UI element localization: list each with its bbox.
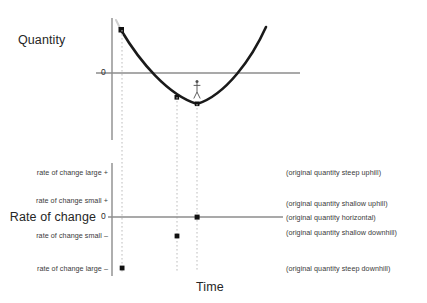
- note-shallow-downhill: (original quantity shallow downhill): [286, 229, 397, 236]
- note-horizontal: (original quantity horizontal): [286, 214, 376, 221]
- rate-point-small-minus: [175, 234, 180, 239]
- quantity-axis-title: Quantity: [18, 34, 65, 47]
- rate-point-large-minus: [120, 266, 125, 271]
- curve-marker-steep-downhill: [119, 27, 125, 33]
- person-figure-icon: [194, 80, 201, 99]
- rate-tick-large-minus: rate of change large –: [37, 265, 108, 272]
- note-steep-downhill: (original quantity steep downhill): [286, 265, 390, 272]
- time-axis-title: Time: [196, 281, 224, 294]
- note-steep-uphill: (original quantity steep uphill): [286, 169, 381, 176]
- rate-point-zero: [195, 215, 200, 220]
- quantity-curve: [121, 27, 266, 104]
- rate-tick-small-minus: rate of change small –: [36, 232, 108, 239]
- derivative-explainer-figure: Quantity 0 rate of change large + rate o…: [0, 0, 427, 303]
- rate-tick-large-plus: rate of change large +: [37, 169, 108, 176]
- rate-tick-small-plus: rate of change small +: [36, 197, 108, 204]
- rate-axis-title: Rate of change: [10, 211, 96, 224]
- quantity-zero-tick-label: 0: [101, 68, 106, 77]
- note-shallow-uphill: (original quantity shallow uphill): [286, 200, 388, 207]
- rate-zero-tick-label: 0: [101, 212, 106, 221]
